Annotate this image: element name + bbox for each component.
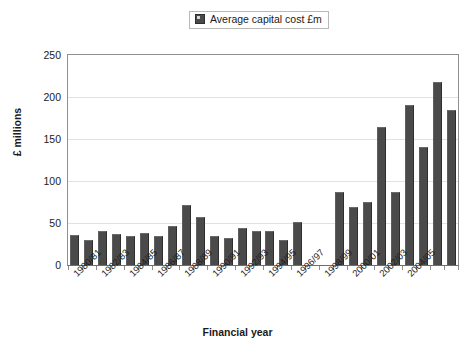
x-axis-tick-mark bbox=[402, 266, 403, 270]
y-axis-tick-label: 100 bbox=[31, 175, 61, 187]
x-axis-title: Financial year bbox=[0, 326, 475, 338]
x-axis-tick-mark bbox=[374, 266, 375, 270]
x-axis-tick-mark bbox=[319, 266, 320, 270]
x-axis-tick-labels: 1980/811982/831984/851986/871988/891990/… bbox=[0, 271, 475, 323]
y-axis-tick-label: 200 bbox=[31, 91, 61, 103]
bar bbox=[70, 235, 79, 265]
y-axis-title: £ millions bbox=[11, 92, 23, 172]
bar bbox=[405, 105, 414, 265]
square-swatch-icon bbox=[195, 14, 205, 24]
x-axis-tick-mark bbox=[347, 266, 348, 270]
y-axis-tick-label: 250 bbox=[31, 49, 61, 61]
x-axis-tick-mark bbox=[458, 266, 459, 270]
x-axis-tick-mark bbox=[291, 266, 292, 270]
x-axis-tick-mark bbox=[179, 266, 180, 270]
x-axis-tick-mark bbox=[207, 266, 208, 270]
y-axis-tick-label: 150 bbox=[31, 133, 61, 145]
x-axis-tick-mark bbox=[235, 266, 236, 270]
legend-item-label: Average capital cost £m bbox=[210, 14, 322, 25]
bar bbox=[238, 228, 247, 265]
x-axis-tick-mark bbox=[68, 266, 69, 270]
y-axis-tick-label: 0 bbox=[31, 259, 61, 271]
chart-legend: Average capital cost £m bbox=[189, 11, 329, 29]
x-axis-tick-mark bbox=[430, 266, 431, 270]
bar bbox=[433, 82, 442, 265]
bar bbox=[447, 110, 456, 265]
x-axis-tick-mark bbox=[96, 266, 97, 270]
x-axis-tick-mark bbox=[263, 266, 264, 270]
bar bbox=[419, 147, 428, 265]
x-axis-tick-mark bbox=[152, 266, 153, 270]
x-axis-tick-mark bbox=[444, 266, 445, 270]
bar bbox=[98, 231, 107, 265]
y-axis-tick-label: 50 bbox=[31, 217, 61, 229]
y-axis-tick-labels: 050100150200250 bbox=[27, 54, 61, 266]
bar bbox=[293, 222, 302, 265]
bar-series-layer bbox=[68, 55, 458, 265]
bar bbox=[377, 127, 386, 265]
x-axis-tick-mark bbox=[124, 266, 125, 270]
bar bbox=[265, 231, 274, 265]
